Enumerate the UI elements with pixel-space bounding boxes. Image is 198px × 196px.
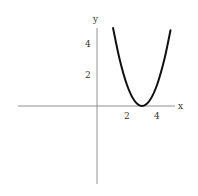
x-tick-4: 4 — [154, 111, 160, 121]
plot: x y 2 4 2 4 — [0, 0, 198, 196]
y-tick-4: 4 — [85, 39, 91, 49]
data-curve — [113, 28, 170, 106]
y-axis-label: y — [92, 14, 99, 24]
x-tick-2: 2 — [124, 111, 130, 121]
x-axis-label: x — [178, 101, 183, 111]
y-tick-2: 2 — [85, 70, 91, 80]
